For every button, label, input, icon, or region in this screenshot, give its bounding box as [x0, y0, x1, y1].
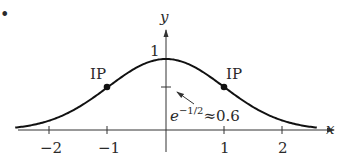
y-tick-label-1: 1 [150, 42, 160, 60]
x-tick-label-1: 1 [220, 139, 230, 157]
x-tick-label-2: 2 [278, 139, 288, 157]
x-tick-label-neg2: −2 [40, 139, 62, 157]
annotation-base: e [170, 107, 179, 125]
inflection-point-right [221, 84, 228, 91]
annotation-approx: ≈0.6 [203, 107, 239, 125]
bullet-marker: • [0, 5, 9, 24]
x-tick-label-neg1: −1 [98, 139, 120, 157]
ip-label-right: IP [226, 65, 242, 83]
ip-label-left: IP [90, 65, 106, 83]
annotation-arrow [177, 92, 194, 104]
annotation-exponent: −1/2 [179, 105, 203, 116]
inflection-point-left [104, 84, 111, 91]
x-axis-label: x [326, 120, 335, 138]
annotation-text: e−1/2≈0.6 [170, 105, 240, 125]
gaussian-figure: • x y −2 −1 1 2 1 IP IP e−1/2≈0.6 [0, 0, 344, 160]
y-axis-label: y [159, 8, 169, 26]
